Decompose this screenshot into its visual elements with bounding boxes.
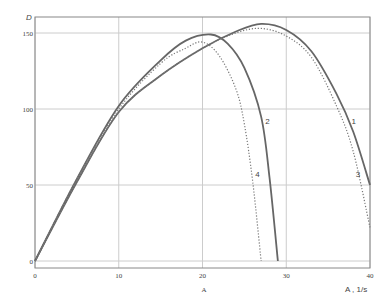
y-tick-label: 0: [30, 258, 34, 266]
grid: [35, 17, 370, 268]
curve-labels: 1234: [255, 117, 361, 179]
y-tick-label: 50: [26, 182, 34, 190]
curve-label-3: 3: [356, 170, 361, 179]
x-tick-label: 20: [199, 272, 207, 280]
x-axis-label: A , 1/s: [345, 285, 367, 294]
curve-4: [35, 42, 261, 261]
curve-label-4: 4: [255, 170, 260, 179]
x-axis-sublabel: A: [201, 286, 206, 294]
x-tick-label: 40: [367, 272, 375, 280]
x-tick-label: 10: [115, 272, 123, 280]
x-tick-label: 30: [283, 272, 291, 280]
curve-label-2: 2: [265, 117, 270, 126]
y-axis-label: D: [26, 13, 32, 22]
chart: 010203040050100150 1234 D A A , 1/s: [0, 0, 391, 307]
x-tick-label: 0: [33, 272, 37, 280]
curve-label-1: 1: [352, 117, 357, 126]
curve-2: [35, 34, 278, 261]
y-tick-label: 150: [23, 30, 34, 38]
y-tick-label: 100: [23, 106, 34, 114]
